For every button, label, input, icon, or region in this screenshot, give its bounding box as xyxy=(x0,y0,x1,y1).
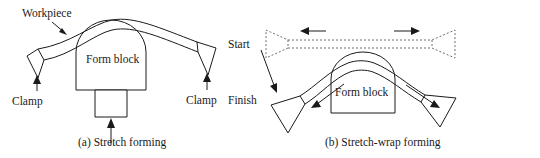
clamp-right-b-jaw xyxy=(421,95,456,127)
tension-arrow-right-b xyxy=(394,27,420,35)
clamp-left-a-leader-arrow xyxy=(33,75,41,91)
motion-arrow-left-head xyxy=(311,100,321,108)
label-form-block-b: Form block xyxy=(335,86,389,98)
clamp-left-a-jaw xyxy=(27,49,44,78)
clamp-left-b-jaw xyxy=(271,96,305,133)
clamp-left-b-ghost-jaw xyxy=(266,30,288,58)
panel-a-stretch-forming: Workpiece Form block Clamp Clamp (a) Str… xyxy=(12,7,217,149)
workpiece-b-start-ghost xyxy=(288,40,432,48)
label-finish: Finish xyxy=(228,94,257,106)
caption-panel-b: (b) Stretch-wrap forming xyxy=(325,136,441,149)
clamp-right-b-ghost xyxy=(432,30,455,58)
start-finish-leader-head xyxy=(270,83,277,93)
label-clamp-left: Clamp xyxy=(12,95,43,108)
caption-panel-a: (a) Stretch forming xyxy=(78,136,166,149)
clamp-left-a xyxy=(27,49,44,78)
clamp-right-b xyxy=(421,95,456,127)
clamp-right-b-ghost-jaw xyxy=(432,30,455,58)
label-start: Start xyxy=(228,38,251,50)
form-block-b xyxy=(331,52,395,113)
clamp-left-b-ghost xyxy=(266,30,288,58)
clamp-left-a-leader-head xyxy=(33,75,41,84)
tension-arrow-right-head xyxy=(411,27,420,35)
figure-canvas: Workpiece Form block Clamp Clamp (a) Str… xyxy=(0,0,540,158)
stretch-forming-diagram: Workpiece Form block Clamp Clamp (a) Str… xyxy=(0,0,540,158)
ram-force-head-a xyxy=(107,118,115,128)
clamp-right-a-jaw xyxy=(197,42,216,75)
form-block-a xyxy=(76,20,146,117)
tension-arrow-left-head xyxy=(300,27,309,35)
clamp-right-a-leader-arrow xyxy=(203,73,211,90)
label-workpiece: Workpiece xyxy=(22,7,72,20)
form-block-b-body xyxy=(331,52,395,113)
label-clamp-right: Clamp xyxy=(186,94,217,107)
clamp-right-a-leader-head xyxy=(203,73,211,82)
clamp-right-a xyxy=(197,42,216,75)
workpiece-a-leader-arrow xyxy=(52,22,67,35)
form-block-a-pedestal xyxy=(95,90,127,117)
start-finish-leader-line xyxy=(261,50,275,88)
label-form-block-a: Form block xyxy=(86,53,140,65)
panel-b-stretch-wrap-forming: Start Finish Form block (b) Stretch-wrap… xyxy=(228,27,456,149)
tension-arrow-left-b xyxy=(300,27,326,35)
clamp-left-b xyxy=(271,96,305,133)
